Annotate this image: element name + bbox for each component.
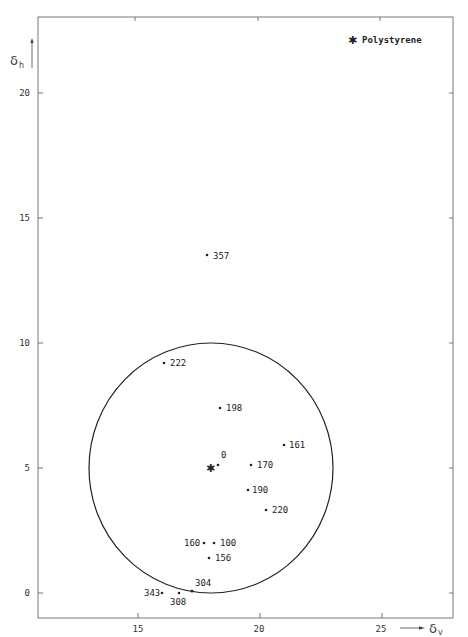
y-tick-label-20: 20	[19, 88, 30, 98]
point-357	[206, 254, 209, 257]
point-161	[283, 444, 286, 447]
point-190	[247, 489, 250, 492]
point-label: 156	[215, 553, 231, 563]
point-label: 160	[184, 538, 200, 548]
star-icon: ✱	[348, 34, 357, 47]
legend-label: Polystyrene	[362, 35, 422, 45]
chart-canvas: 15 20 25 0 5 10 15 20 δ h δ v ✱ Polystyr…	[0, 0, 468, 637]
svg-text:h: h	[19, 61, 24, 70]
svg-text:δ: δ	[429, 621, 437, 636]
point-0	[217, 464, 220, 467]
point-label: 190	[252, 485, 268, 495]
point-label: 343	[144, 588, 160, 598]
point-label: 198	[226, 403, 242, 413]
y-tick-label-5: 5	[25, 463, 30, 473]
point-label: 161	[289, 440, 305, 450]
y-axis-label: δ h	[10, 38, 34, 70]
point-220	[265, 509, 268, 512]
plot-frame	[38, 17, 453, 618]
legend: ✱ Polystyrene	[348, 34, 422, 47]
x-tick-label-20: 20	[254, 624, 265, 634]
y-tick-label-10: 10	[19, 338, 30, 348]
point-label: 308	[170, 597, 186, 607]
point-label: 170	[257, 460, 273, 470]
point-label: 100	[220, 538, 236, 548]
svg-text:δ: δ	[10, 53, 18, 68]
point-100	[213, 542, 216, 545]
x-axis-label: δ v	[400, 621, 443, 637]
y-tick-label-15: 15	[19, 213, 30, 223]
point-label: 220	[272, 505, 288, 515]
x-tick-label-15: 15	[133, 624, 144, 634]
point-label: 222	[170, 358, 186, 368]
svg-text:v: v	[438, 628, 443, 637]
polystyrene-star-icon: ✱	[206, 462, 215, 475]
point-156	[208, 557, 211, 560]
point-label: 0	[221, 450, 226, 460]
point-198	[219, 407, 222, 410]
point-160	[203, 542, 206, 545]
point-304	[191, 590, 194, 593]
x-ticks	[135, 17, 382, 618]
point-label: 304	[195, 578, 211, 588]
point-343	[161, 592, 164, 595]
y-tick-label-0: 0	[25, 588, 30, 598]
point-222	[163, 362, 166, 365]
point-170	[250, 464, 253, 467]
y-ticks	[38, 93, 453, 593]
point-308	[178, 592, 181, 595]
x-tick-label-25: 25	[376, 624, 387, 634]
point-label: 357	[213, 251, 229, 261]
